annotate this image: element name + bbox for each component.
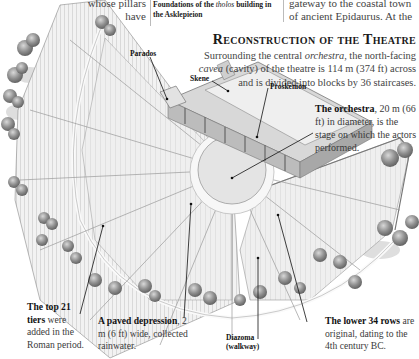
label-diazoma-line2: (walkway): [226, 342, 259, 351]
body-text: Surrounding the central: [204, 50, 305, 61]
top-fragment-right: gateway to the coastal town of ancient E…: [289, 0, 419, 23]
top-fragment-left-line1: whose pillars: [86, 0, 146, 10]
top-fragment-right-line1: gateway to the coastal town: [289, 0, 419, 10]
column-divider: [283, 0, 284, 22]
tholos-caption: Foundations of the tholos building in th…: [153, 0, 279, 20]
label-skene: Skene: [190, 74, 209, 83]
caption-prefix: Foundations of the: [153, 0, 216, 9]
top-fragment-left: whose pillars have: [86, 0, 146, 23]
caption-italic: tholos: [216, 0, 235, 9]
annotation-bold: A paved depression: [98, 315, 177, 326]
annotation-bold: The lower 34 rows: [325, 315, 400, 326]
label-diazoma-line1: Diazoma: [226, 333, 259, 342]
column-divider: [150, 0, 151, 26]
body-italic: cavea: [199, 63, 223, 74]
annotation-lower-34-rows: The lower 34 rows are original, dating t…: [325, 315, 419, 353]
section-body-line1: Surrounding the central orchestra, the n…: [150, 49, 416, 62]
annotation-top-21-tiers: The top 21 tiers were added in the Roman…: [27, 301, 87, 351]
section-title: Reconstruction of the Theatre: [206, 32, 416, 48]
body-text: , the north-facing: [344, 50, 416, 61]
body-italic: orchestra: [305, 50, 344, 61]
body-text: (cavity) of the theatre is 114 m (374 ft…: [223, 63, 416, 74]
annotation-paved-depression: A paved depression, 2 m (6 ft) wide, col…: [98, 315, 188, 353]
annotation-bold: The orchestra: [315, 103, 375, 114]
label-proskenion: Proskenion: [270, 82, 306, 91]
top-fragment-right-line2: of ancient Epidaurus. At the: [289, 10, 419, 23]
top-fragment-left-line2: have: [86, 10, 146, 23]
label-parados: Parados: [130, 49, 156, 58]
annotation-orchestra: The orchestra, 20 m (66 ft) in diameter,…: [315, 102, 419, 154]
label-diazoma: Diazoma (walkway): [226, 333, 259, 351]
